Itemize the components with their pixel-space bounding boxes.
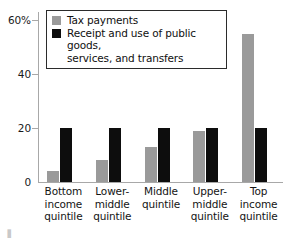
legend-label-tax-payments: Tax payments (67, 14, 138, 26)
x-tick-label: Middle quintile (137, 185, 186, 210)
y-tick-label: 20 (1, 123, 31, 133)
bar-tax-payments (193, 131, 205, 182)
bar-tax-payments (242, 34, 254, 183)
y-axis-labels: 60%40200 (0, 0, 31, 238)
bar-receipt-public-goods (109, 128, 121, 182)
x-tick-label: Top income quintile (234, 185, 283, 223)
y-tick-mark (32, 20, 38, 21)
chart-legend: Tax payments Receipt and use of public g… (46, 10, 227, 69)
legend-label-receipt-public-goods: Receipt and use of public goods, service… (67, 27, 222, 64)
bar-group (234, 8, 283, 182)
bar-receipt-public-goods (206, 128, 218, 182)
scan-artifact: ▐ (4, 231, 11, 238)
x-axis-labels: Bottom income quintileLower- middle quin… (39, 185, 283, 238)
x-axis-line (38, 182, 283, 183)
bar-tax-payments (47, 171, 59, 182)
x-tick-label: Upper- middle quintile (185, 185, 234, 223)
y-tick-mark (32, 128, 38, 129)
bar-receipt-public-goods (60, 128, 72, 182)
bar-tax-payments (145, 147, 157, 182)
bar-chart: 60%40200 Bottom income quintileLower- mi… (0, 0, 287, 238)
x-tick-label: Lower- middle quintile (88, 185, 137, 223)
legend-item-receipt-public-goods: Receipt and use of public goods, service… (52, 27, 222, 64)
bar-receipt-public-goods (158, 128, 170, 182)
y-tick-label: 0 (1, 177, 31, 187)
bar-tax-payments (96, 160, 108, 182)
legend-swatch-tax-payments (52, 16, 61, 25)
legend-item-tax-payments: Tax payments (52, 14, 222, 26)
bar-receipt-public-goods (255, 128, 267, 182)
x-tick-label: Bottom income quintile (39, 185, 88, 223)
y-tick-label: 60% (1, 15, 31, 25)
y-tick-label: 40 (1, 69, 31, 79)
y-tick-mark (32, 74, 38, 75)
legend-swatch-receipt-public-goods (52, 29, 61, 38)
